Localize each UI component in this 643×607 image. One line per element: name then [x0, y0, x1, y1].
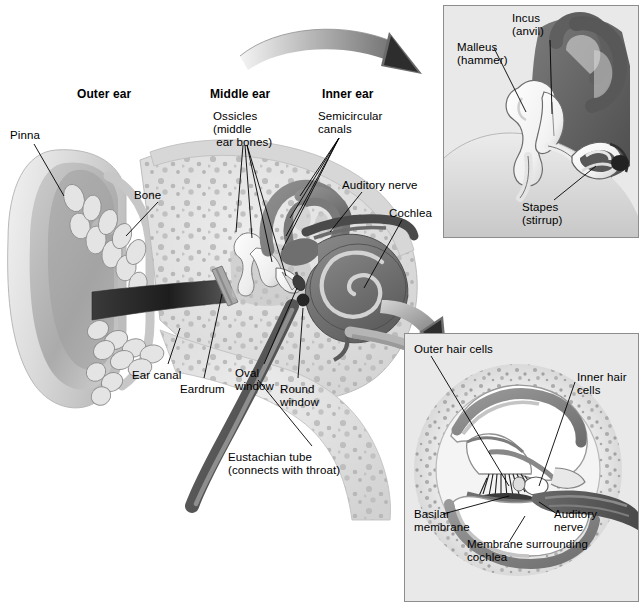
label-pinna: Pinna — [10, 129, 40, 142]
label-eustachian-tube: Eustachian tube (connects with throat) — [228, 451, 340, 477]
label-malleus: Malleus (hammer) — [457, 41, 508, 67]
label-round-window: Round window — [280, 383, 319, 409]
label-basilar-membrane: Basilar membrane — [414, 508, 470, 534]
figure-canvas: Outer ear Middle ear Inner ear Pinna Bon… — [0, 0, 643, 607]
heading-outer-ear: Outer ear — [77, 88, 131, 101]
label-bone: Bone — [134, 189, 161, 202]
round-window-opening — [297, 294, 309, 306]
arrow-to-ossicles-inset — [240, 29, 422, 74]
label-auditory-nerve: Auditory nerve — [342, 179, 418, 192]
label-auditory-nerve-inset: Auditory nerve — [554, 508, 597, 534]
label-outer-hair-cells: Outer hair cells — [414, 343, 493, 356]
label-semicircular-canals: Semicircular canals — [318, 110, 382, 136]
label-stapes: Stapes (stirrup) — [522, 201, 563, 227]
label-cochlea: Cochlea — [389, 207, 432, 220]
label-ossicles: Ossicles (middle ear bones) — [213, 110, 272, 150]
heading-inner-ear: Inner ear — [322, 88, 374, 101]
label-incus: Incus (anvil) — [512, 12, 544, 38]
label-oval-window: Oval window — [235, 367, 274, 393]
label-inner-hair-cells: Inner hair cells — [577, 371, 627, 397]
label-ear-canal: Ear canal — [132, 369, 181, 382]
heading-middle-ear: Middle ear — [210, 88, 270, 101]
label-eardrum: Eardrum — [180, 383, 225, 396]
label-membrane-surrounding-cochlea: Membrane surrounding cochlea — [467, 538, 588, 564]
